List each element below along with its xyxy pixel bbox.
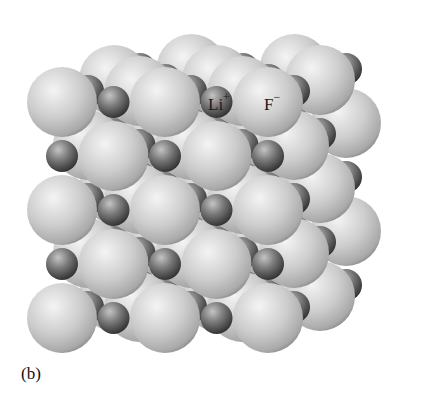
lithium-ion-sphere xyxy=(149,248,181,280)
lithium-ion-sphere xyxy=(46,140,78,172)
lithium-ion-sphere xyxy=(98,194,130,226)
fluoride-ion-label: F− xyxy=(264,93,280,113)
lithium-ion-sphere xyxy=(149,140,181,172)
lithium-symbol: Li xyxy=(208,95,223,114)
fluoride-ion-sphere xyxy=(130,67,200,137)
fluoride-ion-sphere xyxy=(182,121,252,191)
fluoride-ion-sphere xyxy=(233,283,303,353)
fluoride-ion-sphere xyxy=(130,283,200,353)
lithium-ion-sphere xyxy=(98,302,130,334)
lithium-ion-sphere xyxy=(252,248,284,280)
fluoride-ion-sphere xyxy=(130,175,200,245)
figure-caption: (b) xyxy=(21,364,41,384)
fluoride-ion-sphere xyxy=(79,229,149,299)
fluoride-ion-sphere xyxy=(233,175,303,245)
lithium-ion-sphere xyxy=(46,248,78,280)
lithium-ion-sphere xyxy=(201,302,233,334)
lithium-charge: + xyxy=(223,90,230,104)
fluoride-ion-sphere xyxy=(27,175,97,245)
fluoride-ion-sphere xyxy=(79,121,149,191)
fluoride-ion-sphere xyxy=(27,283,97,353)
fluoride-ion-sphere xyxy=(182,229,252,299)
crystal-lattice-diagram xyxy=(0,0,434,399)
lithium-ion-sphere xyxy=(201,194,233,226)
fluoride-ion-sphere xyxy=(27,67,97,137)
lithium-ion-sphere xyxy=(98,86,130,118)
lithium-ion-label: Li+ xyxy=(208,93,230,113)
fluoride-charge: − xyxy=(273,90,280,104)
lithium-ion-sphere xyxy=(252,140,284,172)
ion-spheres xyxy=(27,34,381,353)
